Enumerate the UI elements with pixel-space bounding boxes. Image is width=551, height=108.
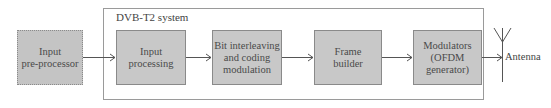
connector-arrows	[0, 0, 551, 108]
antenna-label: Antenna	[505, 51, 541, 62]
